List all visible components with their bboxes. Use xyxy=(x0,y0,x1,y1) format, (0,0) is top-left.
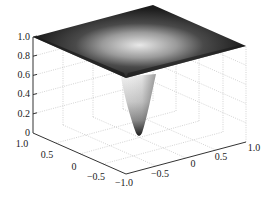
svg-text:−1.0: −1.0 xyxy=(115,177,133,188)
svg-text:1.0: 1.0 xyxy=(18,31,31,42)
svg-text:0.4: 0.4 xyxy=(18,88,31,99)
svg-text:1.0: 1.0 xyxy=(248,142,261,153)
svg-text:0: 0 xyxy=(191,158,196,169)
y-axis-labels: −0.5 0 0.5 1.0 xyxy=(151,142,260,179)
svg-text:0.5: 0.5 xyxy=(215,151,228,162)
svg-text:0.5: 0.5 xyxy=(41,149,54,160)
svg-text:−0.5: −0.5 xyxy=(87,171,105,182)
funnel-well xyxy=(121,74,156,136)
z-axis-labels: 1.0 0.8 0.6 0.4 0.2 0 xyxy=(18,31,31,138)
svg-text:0: 0 xyxy=(72,161,77,172)
svg-text:0.6: 0.6 xyxy=(18,69,31,80)
svg-text:0: 0 xyxy=(25,127,30,138)
x-axis-labels: 1.0 0.5 0 −0.5 −1.0 xyxy=(16,138,133,188)
z-ticks xyxy=(33,36,37,114)
svg-text:0.8: 0.8 xyxy=(18,50,31,61)
svg-text:0.2: 0.2 xyxy=(18,108,31,119)
y-axis-line xyxy=(126,142,246,174)
surface-plot: 1.0 0.8 0.6 0.4 0.2 0 1.0 0.5 0 −0.5 −1.… xyxy=(0,0,274,198)
svg-text:−0.5: −0.5 xyxy=(151,168,169,179)
svg-text:1.0: 1.0 xyxy=(16,138,29,149)
